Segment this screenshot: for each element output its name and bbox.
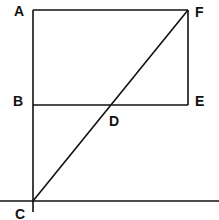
- geometry-diagram: A F B E D C: [0, 0, 219, 220]
- label-f: F: [195, 4, 204, 20]
- label-e: E: [195, 93, 204, 109]
- diagram-canvas: A F B E D C: [0, 0, 219, 220]
- label-b: B: [13, 93, 23, 109]
- label-c: C: [15, 206, 25, 220]
- label-a: A: [14, 3, 24, 19]
- label-d: D: [109, 113, 119, 129]
